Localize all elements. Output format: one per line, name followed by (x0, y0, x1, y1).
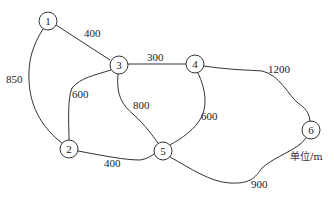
nodes: 1 2 3 4 5 6 (39, 12, 320, 160)
node-3-label: 3 (116, 59, 122, 71)
node-1-label: 1 (45, 15, 51, 27)
node-2-label: 2 (66, 143, 72, 155)
node-2: 2 (60, 140, 78, 158)
edge-5-6 (170, 138, 306, 183)
edge-4-6 (204, 66, 310, 121)
node-4-label: 4 (192, 58, 198, 70)
graph-canvas: 400 850 300 600 800 600 1200 400 900 1 2… (0, 0, 334, 201)
edge-1-3 (56, 25, 110, 60)
weight-3-5: 800 (133, 99, 150, 111)
weight-1-2: 850 (6, 73, 23, 85)
weight-2-5: 400 (104, 157, 121, 169)
edge-4-5 (170, 73, 205, 145)
edges (29, 25, 310, 183)
edge-3-2 (69, 70, 111, 140)
node-5-label: 5 (160, 145, 166, 157)
weight-5-6: 900 (251, 178, 268, 190)
weight-1-3: 400 (84, 27, 101, 39)
weight-4-6: 1200 (268, 63, 291, 75)
node-4: 4 (186, 55, 204, 73)
edge-weights: 400 850 300 600 800 600 1200 400 900 (6, 27, 291, 190)
weight-4-5: 600 (201, 110, 218, 122)
network-graph-diagram: 400 850 300 600 800 600 1200 400 900 1 2… (0, 0, 334, 201)
weight-3-4: 300 (147, 51, 164, 63)
node-5: 5 (154, 142, 172, 160)
node-6-label: 6 (308, 124, 314, 136)
edge-1-2 (29, 29, 62, 143)
unit-label: 单位/m (290, 150, 323, 162)
weight-3-2: 600 (72, 88, 89, 100)
node-6: 6 (302, 121, 320, 139)
node-1: 1 (39, 12, 57, 30)
node-3: 3 (110, 56, 128, 74)
